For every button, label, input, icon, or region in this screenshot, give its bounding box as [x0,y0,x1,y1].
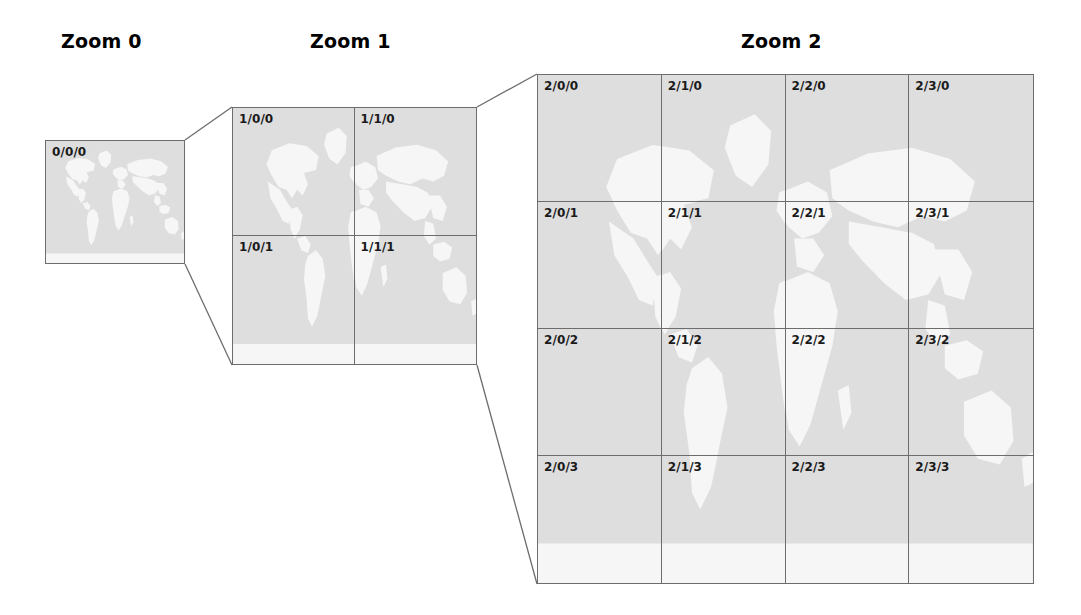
tile-map-imagery [46,141,184,263]
tile-map-imagery [909,202,1033,328]
tile-label: 2/1/3 [668,460,702,474]
tile-map-imagery [786,202,909,328]
tile-map-imagery [233,236,354,364]
tile-label: 2/0/0 [544,79,578,93]
tile-map-imagery [909,456,1033,583]
map-tile[interactable]: 2/0/3 [538,456,662,583]
title-zoom-0: Zoom 0 [61,30,142,52]
map-tile[interactable]: 2/1/1 [662,202,786,329]
tile-map-imagery [662,329,785,455]
map-tile[interactable]: 1/1/1 [355,236,477,364]
tile-label: 2/3/3 [915,460,949,474]
map-tile[interactable]: 2/0/2 [538,329,662,456]
tile-label: 0/0/0 [52,145,86,159]
map-tile[interactable]: 0/0/0 [46,141,184,263]
tile-grid-level-2: 2/0/02/1/02/2/02/3/02/0/12/1/12/2/12/3/1… [537,74,1034,584]
map-tile[interactable]: 1/0/0 [233,108,355,236]
tile-label: 2/3/1 [915,206,949,220]
tile-label: 1/1/1 [361,240,395,254]
tile-map-imagery [786,75,909,201]
tile-map-imagery [355,108,477,235]
tile-label: 2/3/2 [915,333,949,347]
tile-label: 2/3/0 [915,79,949,93]
map-tile[interactable]: 2/0/0 [538,75,662,202]
map-tile[interactable]: 1/1/0 [355,108,477,236]
connector-lvl0-to-lvl1-bottom [185,264,232,365]
tile-label: 2/2/2 [792,333,826,347]
tile-grid-level-0: 0/0/0 [45,140,185,264]
tile-label: 2/2/3 [792,460,826,474]
tile-map-imagery [538,202,661,328]
tile-map-imagery [662,202,785,328]
map-tile[interactable]: 2/2/2 [786,329,910,456]
map-tile[interactable]: 2/3/1 [909,202,1033,329]
tile-map-imagery [909,329,1033,455]
map-tile[interactable]: 1/0/1 [233,236,355,364]
connector-lvl0-to-lvl1-top [185,107,232,140]
map-tile[interactable]: 2/3/2 [909,329,1033,456]
tile-label: 2/1/0 [668,79,702,93]
tile-label: 2/2/1 [792,206,826,220]
tile-map-imagery [909,75,1033,201]
map-tile[interactable]: 2/1/0 [662,75,786,202]
tile-map-imagery [662,456,785,583]
tile-label: 2/0/2 [544,333,578,347]
map-tile[interactable]: 2/2/1 [786,202,910,329]
tile-grid-level-1: 1/0/01/1/01/0/11/1/1 [232,107,477,365]
tile-map-imagery [538,329,661,455]
map-tile[interactable]: 2/3/3 [909,456,1033,583]
tile-map-imagery [355,236,477,364]
map-tile[interactable]: 2/3/0 [909,75,1033,202]
tile-map-imagery [538,75,661,201]
tile-label: 2/2/0 [792,79,826,93]
tile-label: 1/0/0 [239,112,273,126]
tile-label: 2/1/1 [668,206,702,220]
map-tile[interactable]: 2/1/2 [662,329,786,456]
tile-map-imagery [662,75,785,201]
title-zoom-2: Zoom 2 [741,30,822,52]
connector-lvl1-to-lvl2-top [477,74,537,107]
tile-map-imagery [786,329,909,455]
map-tile[interactable]: 2/0/1 [538,202,662,329]
tile-label: 1/1/0 [361,112,395,126]
tile-label: 1/0/1 [239,240,273,254]
tile-map-imagery [786,456,909,583]
map-tile[interactable]: 2/1/3 [662,456,786,583]
tile-label: 2/0/1 [544,206,578,220]
title-zoom-1: Zoom 1 [310,30,391,52]
tile-map-imagery [233,108,354,235]
map-tile[interactable]: 2/2/3 [786,456,910,583]
tile-label: 2/0/3 [544,460,578,474]
tile-map-imagery [538,456,661,583]
map-tile[interactable]: 2/2/0 [786,75,910,202]
connector-lvl1-to-lvl2-bottom [477,365,537,584]
tile-pyramid-figure: Zoom 0Zoom 1Zoom 2 0/0/01/0/01/1/01/0/11… [0,0,1081,615]
tile-label: 2/1/2 [668,333,702,347]
